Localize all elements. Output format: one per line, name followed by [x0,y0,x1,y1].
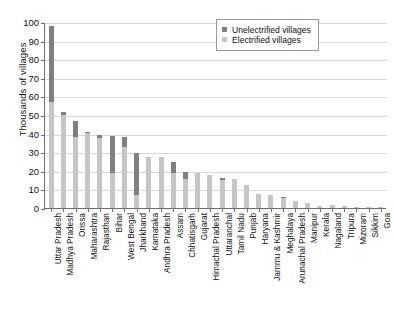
y-tick-label: 90 [28,37,39,47]
bar-segment-electrified [244,185,249,208]
x-tick-label: Kerala [322,213,330,237]
bar-segment-electrified [195,173,200,208]
x-tick-mark [222,208,223,212]
x-tick-mark [124,208,125,212]
x-tick-label: Jharkhand [139,213,147,252]
bar-segment-electrified [159,157,164,208]
x-tick-label: Meghalaya [286,213,294,254]
x-tick-mark [283,208,284,212]
x-tick-mark [149,208,150,212]
stacked-bar [232,179,237,208]
bar-group [277,197,289,208]
bar-group [155,157,167,208]
stacked-bar [195,173,200,208]
bar-group [350,207,362,208]
y-axis-title: Thousands of villages [17,5,28,175]
bar-segment-electrified [256,194,261,208]
x-tick-label: Arunachal Pradesh [298,213,306,284]
x-tick-label: Orissa [78,213,86,237]
x-tick-mark [271,208,272,212]
bar-segment-electrified [146,157,151,208]
x-tick-mark [100,208,101,212]
x-tick-label: Tamil Nadu [237,213,245,255]
bar-segment-electrified [97,138,102,208]
x-tick-mark [247,208,248,212]
stacked-bar [159,157,164,208]
stacked-bar [73,121,78,208]
bar-group [143,157,155,208]
bar-segment-unelectrified [73,121,78,138]
x-tick-label: Chhatisgarh [188,213,196,258]
legend-label: Electrified villages [232,36,301,45]
x-tick-label: Punjab [249,213,257,239]
x-tick-mark [356,208,357,212]
bar-segment-unelectrified [122,137,127,146]
bar-segment-electrified [220,180,225,208]
x-tick-label: Maharashtra [90,213,98,260]
stacked-bar [97,135,102,208]
stacked-bar [171,162,176,208]
y-tick-label: 10 [28,186,39,196]
y-tick-label: 40 [28,130,39,140]
stacked-bar [49,26,54,208]
y-tick-label: 30 [28,148,39,158]
bar-segment-electrified [207,175,212,208]
bar-segment-unelectrified [49,26,54,102]
x-axis-labels: Uttar PradeshMadhya PradeshOrissaMaharas… [44,213,386,317]
bar-segment-electrified [134,195,139,208]
x-tick-mark [198,208,199,212]
bar-segment-electrified [122,147,127,208]
x-tick-mark [320,208,321,212]
bar-group [240,185,252,208]
bar-segment-electrified [232,179,237,208]
x-tick-mark [63,208,64,212]
x-tick-label: Madhya Pradesh [66,213,74,276]
y-tick-label: 60 [28,93,39,103]
x-tick-label: Manipur [310,213,318,243]
x-tick-mark [161,208,162,212]
x-tick-mark [185,208,186,212]
bar-segment-unelectrified [110,136,115,172]
bar-group [338,206,350,208]
x-tick-mark [76,208,77,212]
x-tick-label: Jammu & Kashmir [273,213,281,281]
bar-group [82,132,94,208]
bar-segment-electrified [183,179,188,208]
x-tick-mark [259,208,260,212]
bar-group [118,137,130,208]
legend-swatch-icon [222,37,227,42]
stacked-bar [134,153,139,208]
x-tick-mark [88,208,89,212]
x-tick-mark [381,208,382,212]
x-tick-mark [137,208,138,212]
x-tick-mark [173,208,174,212]
bar-group [375,207,387,208]
bar-group [253,194,265,208]
bar-segment-electrified [171,173,176,208]
bar-group [131,153,143,208]
x-tick-mark [112,208,113,212]
bar-group [179,172,191,208]
chart-legend: Unelectrified villages Electrified villa… [216,19,319,51]
legend-swatch-icon [222,27,227,32]
bar-segment-unelectrified [134,153,139,195]
bar-segment-electrified [85,133,90,208]
bar-group [204,175,216,208]
legend-item-unelectrified: Unelectrified villages [222,26,311,35]
stacked-bar [61,112,66,208]
y-tick-label: 20 [28,167,39,177]
bar-group [94,135,106,208]
y-tick-label: 70 [28,74,39,84]
stacked-bar [85,132,90,208]
plot-area: 0102030405060708090100 [44,23,386,209]
bar-group [216,178,228,208]
stacked-bar [220,178,225,208]
x-tick-label: Goa [383,213,391,229]
bar-segment-electrified [268,195,273,208]
y-tick-label: 100 [23,18,39,28]
bar-group [45,26,57,208]
x-tick-label: Sikkim [371,213,379,237]
stacked-bar [293,201,298,208]
bar-segment-electrified [73,137,78,208]
bar-chart: Thousands of villages 010203040506070809… [0,0,394,317]
